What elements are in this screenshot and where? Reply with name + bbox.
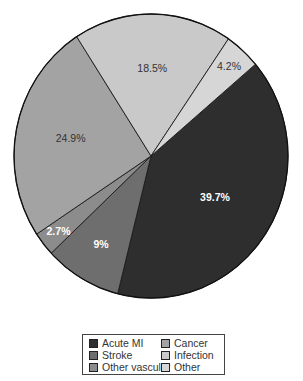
legend-item-cancer: Cancer — [161, 337, 221, 349]
legend-item-other: Other — [161, 361, 221, 373]
slice-label-other: 4.2% — [217, 60, 241, 72]
legend-item-stroke: Stroke — [89, 349, 161, 361]
legend-item-acute-mi: Acute MI — [89, 337, 161, 349]
slice-label-stroke: 9% — [93, 238, 109, 250]
legend-label: Infection — [174, 349, 214, 361]
legend-swatch-stroke — [89, 351, 98, 360]
legend-swatch-cancer — [161, 339, 170, 348]
slice-label-other-vascular: 2.7% — [47, 225, 72, 237]
legend-item-other-vascular: Other vascular — [89, 361, 161, 373]
pie-chart: 39.7%9%2.7%24.9%18.5%4.2% — [0, 0, 303, 330]
legend-label: Cancer — [174, 337, 208, 349]
legend-label: Acute MI — [102, 337, 143, 349]
chart-legend: Acute MI Cancer Stroke Infection Other v… — [82, 334, 225, 375]
slice-label-acute-mi: 39.7% — [200, 191, 230, 203]
legend-swatch-infection — [161, 351, 170, 360]
legend-label: Other — [174, 361, 200, 373]
legend-swatch-acute-mi — [89, 339, 98, 348]
legend-item-infection: Infection — [161, 349, 221, 361]
legend-swatch-other-vascular — [89, 363, 98, 372]
legend-label: Stroke — [102, 349, 132, 361]
legend-swatch-other — [161, 363, 170, 372]
slice-label-infection: 18.5% — [137, 62, 167, 74]
slice-label-cancer: 24.9% — [56, 132, 86, 144]
